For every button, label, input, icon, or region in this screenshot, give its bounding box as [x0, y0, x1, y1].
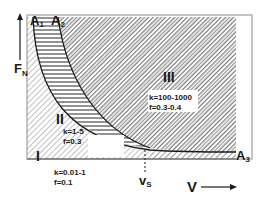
region-III-k: k=100-1000	[149, 93, 192, 102]
y-axis-label: F	[14, 61, 22, 76]
region-III-label: III	[163, 69, 175, 85]
region-I-label: I	[36, 148, 40, 164]
svg-text:FN: FN	[14, 61, 28, 78]
region-I-f: f=0.1	[54, 178, 73, 187]
x-arrow-head-icon	[230, 184, 237, 190]
regime-diagram: A1 A2 A3 FN vS V III k=100-1000 f=0.3-0.…	[0, 0, 265, 222]
region-III-f: f=0.3-0.4	[149, 103, 182, 112]
region-II-k: k=1-5	[63, 127, 84, 136]
region-II-f: f=0.3	[63, 137, 82, 146]
region-I-k: k=0.01-1	[54, 168, 86, 177]
x-axis-label: V	[187, 178, 197, 195]
svg-text:A3: A3	[236, 148, 250, 164]
y-arrow-head-icon	[17, 13, 23, 20]
region-II-label: II	[56, 111, 64, 127]
svg-text:vS: vS	[139, 173, 152, 189]
